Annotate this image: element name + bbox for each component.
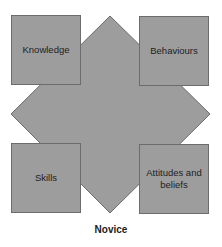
knowledge-box: Knowledge xyxy=(11,15,81,85)
attitudes-beliefs-label: Attitudes and beliefs xyxy=(146,167,202,191)
knowledge-label: Knowledge xyxy=(22,44,69,56)
skills-label: Skills xyxy=(35,172,57,184)
attitudes-beliefs-box: Attitudes and beliefs xyxy=(139,144,209,214)
behaviours-label: Behaviours xyxy=(150,45,198,57)
behaviours-box: Behaviours xyxy=(139,16,209,86)
diagram-caption: Novice xyxy=(0,224,222,235)
skills-box: Skills xyxy=(11,143,81,213)
